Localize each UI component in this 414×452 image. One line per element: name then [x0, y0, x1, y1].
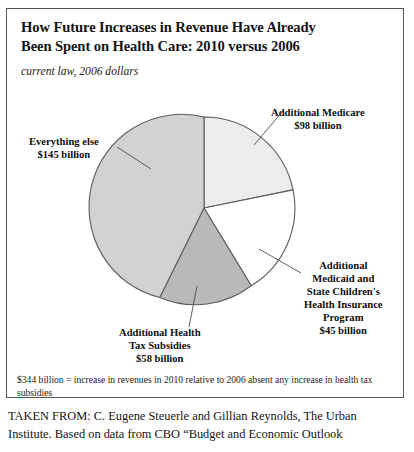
- callout-everything-else-line-2: $145 billion: [29, 149, 99, 162]
- source-credit: TAKEN FROM: C. Eugene Steuerle and Gilli…: [8, 408, 404, 443]
- callout-medicaid-line-4: Health Insurance: [304, 299, 383, 312]
- callout-everything-else: Everything else $145 billion: [29, 136, 99, 162]
- leader-line-medicaid: [259, 249, 301, 273]
- page-title: How Future Increases in Revenue Have Alr…: [21, 18, 381, 55]
- callout-tax-subsidies-line-3: $58 billion: [119, 353, 201, 366]
- callout-tax-subsidies-line-2: Tax Subsidies: [119, 340, 201, 353]
- callout-medicaid-line-2: Medicaid and: [304, 273, 383, 286]
- leader-line-tax-subsidies: [189, 286, 197, 327]
- chart-panel: How Future Increases in Revenue Have Alr…: [6, 8, 404, 398]
- title-line-1: How Future Increases in Revenue Have Alr…: [21, 18, 381, 37]
- source-line-1: TAKEN FROM: C. Eugene Steuerle and Gilli…: [8, 408, 404, 426]
- leader-line-everything-else: [117, 147, 151, 169]
- callout-additional-medicaid-schip: Additional Medicaid and State Children's…: [304, 260, 383, 338]
- pie-slice-additional-health-tax-subsidies: [160, 208, 251, 305]
- callout-additional-medicare: Additional Medicare $98 billion: [271, 107, 365, 133]
- chart-footnote: $344 billion = increase in revenues in 2…: [17, 374, 395, 400]
- callout-tax-subsidies-line-1: Additional Health: [119, 327, 201, 340]
- callout-medicaid-line-5: Program: [304, 312, 383, 325]
- callout-medicaid-line-6: $45 billion: [304, 325, 383, 338]
- chart-subtitle: current law, 2006 dollars: [21, 65, 138, 78]
- callout-medicaid-line-3: State Children's: [304, 286, 383, 299]
- pie-slice-everything-else: [89, 114, 204, 297]
- callout-medicaid-line-1: Additional: [304, 260, 383, 273]
- title-line-2: Been Spent on Health Care: 2010 versus 2…: [21, 37, 381, 56]
- callout-everything-else-line-1: Everything else: [29, 136, 99, 149]
- callout-additional-health-tax-subsidies: Additional Health Tax Subsidies $58 bill…: [119, 327, 201, 366]
- pie-slice-additional-medicaid-schip: [204, 190, 295, 286]
- callout-medicare-line-1: Additional Medicare: [271, 107, 365, 120]
- figure-root: How Future Increases in Revenue Have Alr…: [0, 0, 414, 452]
- callout-medicare-line-2: $98 billion: [271, 120, 365, 133]
- source-line-2: Institute. Based on data from CBO “Budge…: [8, 426, 404, 444]
